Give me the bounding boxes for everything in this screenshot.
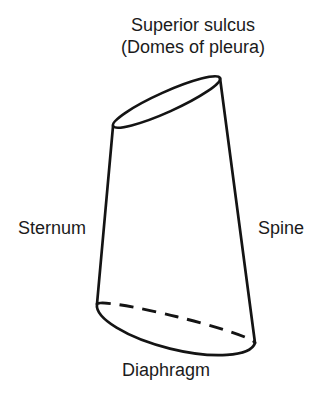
cone-left-side xyxy=(97,126,113,304)
label-diaphragm: Diaphragm xyxy=(122,359,210,381)
cone-bottom-front-arc xyxy=(97,304,255,355)
title-line-1: Superior sulcus xyxy=(121,14,265,36)
cone-bottom-back-dashed-arc xyxy=(97,303,255,343)
title-line-2: (Domes of pleura) xyxy=(121,36,265,58)
label-spine: Spine xyxy=(258,217,304,239)
cone-top-ellipse xyxy=(109,69,224,135)
label-sternum: Sternum xyxy=(18,217,86,239)
pleura-cone-figure: Superior sulcus (Domes of pleura) Sternu… xyxy=(0,0,317,394)
label-superior-sulcus: Superior sulcus (Domes of pleura) xyxy=(121,14,265,58)
cone-right-side xyxy=(220,78,255,343)
cone-diagram xyxy=(0,0,317,394)
